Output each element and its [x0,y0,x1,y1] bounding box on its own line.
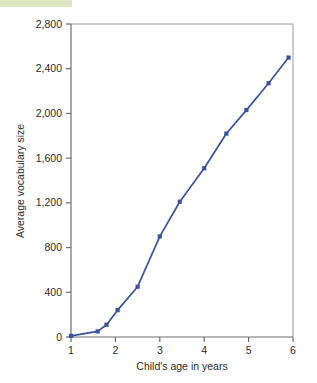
x-tick-label: 2 [112,344,118,356]
data-point-marker [158,234,162,238]
x-tick-label: 4 [201,344,207,356]
data-point-marker [116,308,120,312]
x-tick-label: 5 [246,344,252,356]
data-point-marker [96,329,100,333]
data-point-marker [202,166,206,170]
x-tick-label: 3 [157,344,163,356]
y-tick-label: 400 [44,286,62,298]
x-axis-title: Child's age in years [136,360,227,372]
vocabulary-growth-chart: 04008001,2001,6002,0002,4002,800 123456 … [0,0,317,383]
axis-frame [71,24,293,337]
y-axis-title: Average vocabulary size [14,124,26,238]
data-point-marker [136,285,140,289]
y-tick-label: 2,000 [36,107,62,119]
data-point-marker [244,108,248,112]
y-tick-label: 0 [56,331,62,343]
data-line-series [71,58,289,336]
x-tick-label: 1 [68,344,74,356]
y-tick-label: 800 [44,241,62,253]
y-tick-label: 2,400 [36,62,62,74]
y-tick-label: 1,600 [36,152,62,164]
data-point-marker [266,81,270,85]
data-point-marker [224,131,228,135]
x-axis-ticks: 123456 [68,337,296,356]
y-axis-ticks: 04008001,2001,6002,0002,4002,800 [36,18,71,343]
chart-plot-area: 04008001,2001,6002,0002,4002,800 123456 … [0,0,317,383]
data-point-marker [286,55,290,59]
data-point-marker [178,200,182,204]
x-tick-label: 6 [290,344,296,356]
data-point-marker [69,334,73,338]
y-tick-label: 2,800 [36,18,62,30]
y-tick-label: 1,200 [36,196,62,208]
data-point-marker [104,323,108,327]
